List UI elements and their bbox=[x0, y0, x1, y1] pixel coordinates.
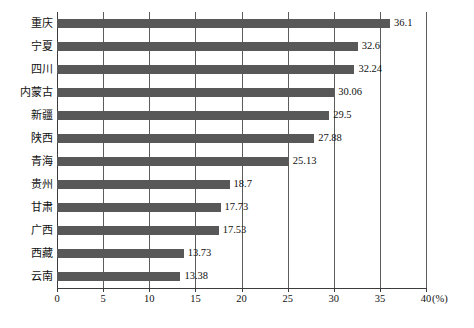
bar-row: 32.6 bbox=[57, 35, 426, 58]
bar-row: 36.1 bbox=[57, 12, 426, 35]
x-tick-label: 40 bbox=[421, 292, 432, 306]
x-tick-mark bbox=[195, 288, 196, 292]
bar-value-label: 32.24 bbox=[358, 61, 382, 76]
bar-value-label: 13.73 bbox=[188, 245, 212, 260]
category-label: 宁夏 bbox=[1, 40, 53, 54]
x-tick-mark bbox=[380, 288, 381, 292]
gridline-40 bbox=[426, 12, 427, 288]
bar bbox=[57, 203, 221, 212]
bar-row: 25.13 bbox=[57, 150, 426, 173]
bar-value-label: 17.73 bbox=[225, 199, 249, 214]
category-label: 新疆 bbox=[1, 109, 53, 123]
bar bbox=[57, 19, 390, 28]
bar-row: 32.24 bbox=[57, 58, 426, 81]
bar bbox=[57, 134, 314, 143]
category-label: 青海 bbox=[1, 155, 53, 169]
bar-value-label: 13.38 bbox=[184, 268, 208, 283]
bar-value-label: 27.88 bbox=[318, 130, 342, 145]
bar bbox=[57, 157, 289, 166]
x-tick-mark bbox=[57, 288, 58, 292]
bar-row: 18.7 bbox=[57, 173, 426, 196]
bar bbox=[57, 226, 219, 235]
bar bbox=[57, 272, 180, 281]
bar-value-label: 18.7 bbox=[234, 176, 252, 191]
bar-value-label: 30.06 bbox=[338, 84, 362, 99]
bar-chart-figure: 重庆宁夏四川内蒙古新疆陕西青海贵州甘肃广西西藏云南 36.132.632.243… bbox=[0, 0, 474, 328]
category-label: 贵州 bbox=[1, 178, 53, 192]
x-tick-label: 35 bbox=[375, 292, 386, 306]
x-tick-mark bbox=[334, 288, 335, 292]
bar bbox=[57, 88, 334, 97]
bar-value-label: 29.5 bbox=[333, 107, 351, 122]
x-tick-mark bbox=[242, 288, 243, 292]
bar bbox=[57, 249, 184, 258]
bar-value-label: 32.6 bbox=[362, 38, 380, 53]
x-axis-unit-label: (%) bbox=[432, 292, 448, 306]
category-axis: 重庆宁夏四川内蒙古新疆陕西青海贵州甘肃广西西藏云南 bbox=[0, 12, 53, 288]
x-tick-label: 25 bbox=[282, 292, 293, 306]
category-label: 内蒙古 bbox=[1, 86, 53, 100]
category-label: 甘肃 bbox=[1, 201, 53, 215]
x-tick-label: 10 bbox=[144, 292, 155, 306]
x-tick-mark bbox=[288, 288, 289, 292]
bar-row: 13.38 bbox=[57, 265, 426, 288]
x-tick-mark bbox=[149, 288, 150, 292]
bar-value-label: 17.53 bbox=[223, 222, 247, 237]
category-label: 重庆 bbox=[1, 17, 53, 31]
bar-row: 29.5 bbox=[57, 104, 426, 127]
bar-row: 13.73 bbox=[57, 242, 426, 265]
bar-value-label: 36.1 bbox=[394, 15, 412, 30]
x-axis-tick-labels: 0510152025303540 bbox=[0, 292, 474, 308]
x-tick-mark bbox=[426, 288, 427, 292]
x-tick-label: 5 bbox=[101, 292, 106, 306]
bar bbox=[57, 180, 230, 189]
x-tick-mark bbox=[103, 288, 104, 292]
category-label: 四川 bbox=[1, 63, 53, 77]
bar-row: 17.73 bbox=[57, 196, 426, 219]
bar-value-label: 25.13 bbox=[293, 153, 317, 168]
bar bbox=[57, 65, 354, 74]
bar-row: 27.88 bbox=[57, 127, 426, 150]
bar-row: 17.53 bbox=[57, 219, 426, 242]
category-label: 云南 bbox=[1, 270, 53, 284]
bar bbox=[57, 42, 358, 51]
category-label: 陕西 bbox=[1, 132, 53, 146]
bar bbox=[57, 111, 329, 120]
x-tick-label: 0 bbox=[54, 292, 59, 306]
x-tick-label: 20 bbox=[236, 292, 247, 306]
category-label: 西藏 bbox=[1, 247, 53, 261]
bar-row: 30.06 bbox=[57, 81, 426, 104]
x-tick-label: 30 bbox=[329, 292, 340, 306]
x-tick-label: 15 bbox=[190, 292, 201, 306]
category-label: 广西 bbox=[1, 224, 53, 238]
plot-area: 36.132.632.2430.0629.527.8825.1318.717.7… bbox=[57, 12, 426, 288]
